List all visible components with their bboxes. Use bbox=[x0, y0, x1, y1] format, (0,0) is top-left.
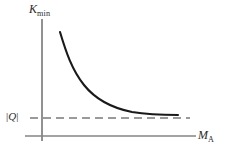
x-axis-label: MA bbox=[198, 129, 214, 145]
asymptote-value-label: |Q| bbox=[6, 111, 18, 122]
plot-svg bbox=[0, 0, 227, 159]
x-axis-subscript: A bbox=[208, 135, 214, 144]
kmin-curve bbox=[60, 32, 178, 115]
abs-bar-right: | bbox=[16, 110, 18, 122]
y-axis-label: Kmin bbox=[29, 3, 50, 19]
figure-container: Kmin MA |Q| bbox=[0, 0, 227, 159]
asymptote-symbol: Q bbox=[8, 110, 16, 122]
y-axis-subscript: min bbox=[37, 9, 50, 18]
y-axis-symbol: K bbox=[29, 2, 37, 16]
x-axis-symbol: M bbox=[198, 128, 208, 142]
